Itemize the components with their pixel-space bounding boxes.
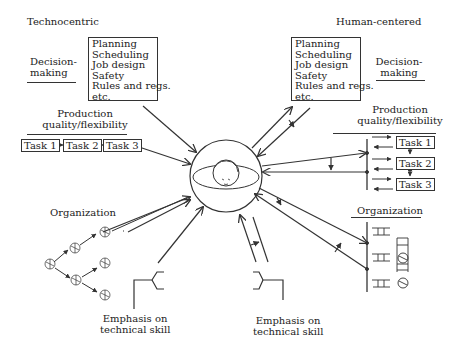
left-decision-label: Decision- making [30, 56, 77, 78]
left-task-2: Task 2 [63, 139, 102, 152]
list-item: Planning [92, 39, 154, 50]
left-decision-list-box: Planning Scheduling Job design Safety Ru… [88, 37, 158, 101]
left-decision-line1: Decision- [30, 56, 77, 67]
left-decision-underline [27, 82, 76, 83]
right-skill-bracket [253, 272, 283, 300]
right-organization-label: Organization [357, 205, 423, 216]
left-production-line2: quality/flexibility [40, 119, 130, 130]
list-item: etc. [295, 92, 357, 103]
right-organization-underline [351, 217, 421, 218]
list-item: Job design [92, 60, 154, 71]
right-decision-underline [376, 80, 425, 81]
list-item: Rules and regs. [92, 81, 154, 92]
right-production-underline [333, 133, 436, 134]
right-skill-line1: Emphasis on [253, 315, 323, 326]
list-item: Job design [295, 60, 357, 71]
right-production-line1: Production [350, 104, 450, 115]
right-production-label: Production quality/flexibility [350, 104, 450, 126]
right-arrows [240, 107, 367, 269]
left-skill-label: Emphasis on technical skill [100, 313, 170, 335]
list-item: Rules and regs. [295, 81, 357, 92]
list-item: etc. [92, 92, 154, 103]
left-skill-line1: Emphasis on [100, 313, 170, 324]
left-production-label: Production quality/flexibility [40, 108, 130, 130]
right-org-bus [366, 222, 409, 292]
left-skill-bracket [134, 272, 164, 309]
human-face-icon [213, 160, 239, 186]
right-skill-line2: technical skill [253, 326, 323, 337]
right-production-line2: quality/flexibility [350, 115, 450, 126]
left-skill-line2: technical skill [100, 324, 170, 335]
right-task-2: Task 2 [396, 157, 435, 170]
right-decision-line2: making [374, 67, 424, 78]
human-centered-title: Human-centered [336, 16, 421, 27]
left-production-line1: Production [40, 108, 130, 119]
left-task-1: Task 1 [21, 139, 60, 152]
left-task-3: Task 3 [103, 139, 142, 152]
right-task-1: Task 1 [396, 136, 435, 149]
right-skill-label: Emphasis on technical skill [253, 315, 323, 337]
diagram-canvas [0, 0, 456, 352]
left-decision-line2: making [30, 67, 77, 78]
list-item: Planning [295, 39, 357, 50]
right-task-3: Task 3 [396, 178, 435, 191]
technocentric-title: Technocentric [27, 16, 99, 27]
central-worker-circle [190, 140, 262, 212]
right-decision-list-box: Planning Scheduling Job design Safety Ru… [291, 37, 361, 101]
left-production-underline [27, 134, 127, 135]
right-decision-label: Decision- making [374, 56, 424, 78]
right-decision-line1: Decision- [374, 56, 424, 67]
left-organization-label: Organization [50, 207, 116, 218]
